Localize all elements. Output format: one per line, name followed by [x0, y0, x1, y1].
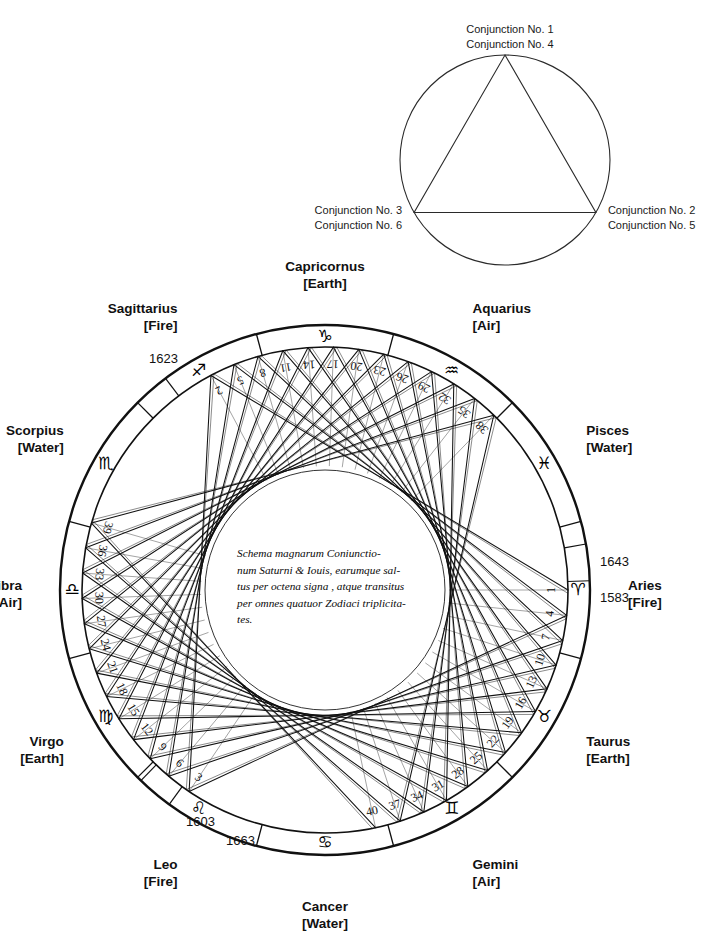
conjunction-label-left-1: Conjunction No. 3 — [315, 204, 402, 216]
latin-caption-line: num Saturni & Iouis, earumque sal- — [237, 564, 400, 576]
zodiac-glyph-scorpius: ♏ — [98, 453, 113, 473]
conjunction-label-top-2: Conjunction No. 4 — [466, 38, 553, 50]
figure-canvas: Conjunction No. 1Conjunction No. 4Conjun… — [0, 0, 702, 933]
zodiac-glyph-sagittarius: ♐ — [191, 360, 206, 380]
zodiac-name-scorpius: Scorpius — [6, 423, 64, 438]
conjunction-number: 36 — [95, 544, 111, 558]
sign-boundary-tick — [256, 825, 262, 846]
sign-boundary-tick — [69, 521, 90, 527]
conjunction-number: 40 — [365, 803, 380, 819]
zodiac-element-taurus: [Earth] — [586, 751, 630, 766]
conjunction-number: 2 — [213, 383, 225, 398]
conjunction-number: 23 — [372, 363, 387, 379]
zodiac-glyph-virgo: ♍ — [98, 706, 113, 726]
zodiac-name-capricornus: Capricornus — [285, 259, 365, 274]
year-marker-1663: 1663 — [226, 833, 255, 848]
conjunction-number: 26 — [394, 369, 410, 386]
sign-boundary-tick — [256, 334, 262, 355]
year-marker-1643: 1643 — [600, 554, 629, 569]
zodiac-element-libra: [Air] — [0, 595, 22, 610]
zodiac-element-virgo: [Earth] — [20, 751, 64, 766]
year-marker-1603: 1603 — [186, 814, 215, 829]
zodiac-element-aries: [Fire] — [628, 595, 662, 610]
zodiac-element-sagittarius: [Fire] — [144, 318, 178, 333]
sign-boundary-tick — [497, 403, 513, 419]
conjunction-chord — [444, 386, 457, 802]
sign-boundary-tick — [388, 825, 394, 846]
zodiac-glyph-pisces: ♓ — [536, 453, 551, 473]
zodiac-element-aquarius: [Air] — [473, 318, 501, 333]
latin-caption-line: Schema magnarum Coniunctio- — [237, 547, 381, 559]
zodiac-name-libra: Libra — [0, 578, 22, 593]
year-marker-1623: 1623 — [149, 351, 178, 366]
trigon-triangle — [414, 55, 596, 213]
zodiac-glyph-cancer: ♋ — [317, 832, 332, 852]
zodiac-glyph-capricornus: ♑ — [317, 326, 332, 346]
zodiac-glyph-libra: ♎ — [64, 579, 79, 599]
zodiac-name-gemini: Gemini — [473, 857, 519, 872]
zodiac-element-gemini: [Air] — [473, 874, 501, 889]
astronomical-diagram: Conjunction No. 1Conjunction No. 4Conjun… — [0, 0, 702, 933]
conjunction-label-left-2: Conjunction No. 6 — [315, 219, 402, 231]
conjunction-number: 17 — [327, 357, 339, 371]
conjunction-label-right-2: Conjunction No. 5 — [608, 219, 695, 231]
conjunction-label-right-1: Conjunction No. 2 — [608, 204, 695, 216]
year-tick — [564, 544, 586, 548]
conjunction-number: 39 — [100, 520, 117, 535]
sign-boundary-tick — [388, 334, 394, 355]
trigon-circle — [400, 55, 610, 265]
latin-caption-line: tes. — [237, 613, 252, 625]
conjunction-number: 7 — [538, 633, 553, 642]
conjunction-number: 8 — [258, 365, 268, 380]
conjunction-number: 33 — [92, 568, 107, 581]
latin-caption-line: per omnes quatuor Zodiaci triplicita- — [236, 597, 406, 609]
sign-boundary-tick — [138, 403, 154, 419]
conjunction-number: 22 — [484, 732, 502, 750]
year-tick — [166, 378, 179, 396]
zodiac-glyph-aries: ♈ — [570, 579, 585, 599]
conjunction-number: 1 — [544, 587, 558, 593]
sign-boundary-tick — [560, 653, 581, 659]
conjunction-number: 4 — [542, 610, 557, 617]
latin-caption-line: tus per octena signa , atque transitus — [237, 580, 405, 592]
conjunction-number: 5 — [235, 373, 246, 388]
zodiac-conjunction-wheel: 1234567891011121314151617181920212223242… — [0, 259, 662, 931]
zodiac-glyph-aquarius: ♒ — [444, 360, 459, 380]
zodiac-name-pisces: Pisces — [586, 423, 629, 438]
zodiac-element-pisces: [Water] — [586, 440, 632, 455]
conjunction-number: 25 — [467, 749, 485, 767]
zodiac-name-taurus: Taurus — [586, 734, 630, 749]
conjunction-number: 27 — [94, 615, 110, 629]
zodiac-element-leo: [Fire] — [144, 874, 178, 889]
zodiac-name-leo: Leo — [153, 857, 177, 872]
conjunction-number: 14 — [303, 357, 316, 372]
zodiac-glyph-gemini: ♊ — [444, 798, 459, 818]
conjunction-label-top-1: Conjunction No. 1 — [466, 23, 553, 35]
sign-boundary-tick — [69, 653, 90, 659]
year-tick — [568, 581, 590, 582]
conjunction-number: 20 — [350, 359, 364, 375]
zodiac-name-aries: Aries — [628, 578, 662, 593]
zodiac-element-cancer: [Water] — [302, 916, 348, 931]
zodiac-glyph-taurus: ♉ — [536, 706, 551, 726]
year-marker-1583: 1583 — [600, 590, 629, 605]
conjunction-number: 11 — [279, 360, 293, 376]
conjunction-number: 24 — [98, 637, 114, 652]
zodiac-name-cancer: Cancer — [302, 899, 349, 914]
trigon-conjunction-diagram: Conjunction No. 1Conjunction No. 4Conjun… — [315, 23, 696, 265]
zodiac-element-capricornus: [Earth] — [303, 276, 347, 291]
year-tick — [169, 787, 182, 805]
conjunction-number: 19 — [498, 714, 516, 732]
zodiac-element-scorpius: [Water] — [18, 440, 64, 455]
conjunction-number: 30 — [92, 592, 106, 604]
conjunction-number: 10 — [531, 652, 548, 668]
zodiac-name-virgo: Virgo — [29, 734, 63, 749]
conjunction-number: 35 — [455, 403, 473, 421]
zodiac-name-sagittarius: Sagittarius — [108, 301, 178, 316]
sign-boundary-tick — [560, 521, 581, 527]
conjunction-number: 3 — [192, 770, 205, 785]
sign-boundary-tick — [497, 762, 513, 778]
zodiac-name-aquarius: Aquarius — [473, 301, 532, 316]
